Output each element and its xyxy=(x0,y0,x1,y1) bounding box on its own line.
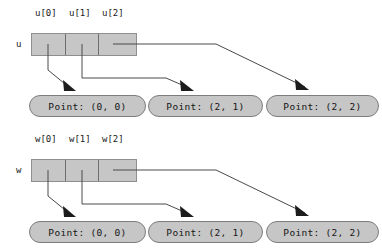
cell-divider xyxy=(65,34,66,55)
point-label: Point: (2, 2) xyxy=(283,101,361,112)
arrowhead-u1 xyxy=(180,80,194,91)
point-label: Point: (0, 0) xyxy=(48,101,126,112)
cell-divider xyxy=(98,34,99,55)
arrowhead-w2 xyxy=(295,205,309,216)
arrowhead-u0 xyxy=(63,80,76,91)
pointer-line-w2 xyxy=(113,170,305,213)
index-label-w2: w[2] xyxy=(102,133,124,145)
array-box-w xyxy=(31,159,137,182)
arrowhead-u2 xyxy=(295,79,309,90)
cell-divider xyxy=(98,160,99,181)
pointer-array-diagram: u[0] u[1] u[2] u Point: (0, 0) Point: (2… xyxy=(0,0,382,252)
index-label-u0: u[0] xyxy=(35,7,57,19)
array-group-w: w[0] w[1] w[2] w Point: (0, 0) Point: (2… xyxy=(0,126,382,252)
variable-label-u: u xyxy=(16,38,21,50)
point-label: Point: (2, 1) xyxy=(166,101,244,112)
arrowhead-w1 xyxy=(180,206,194,217)
point-object-u2: Point: (2, 2) xyxy=(266,95,379,117)
index-label-u1: u[1] xyxy=(69,7,91,19)
point-label: Point: (2, 2) xyxy=(283,227,361,238)
variable-label-w: w xyxy=(16,164,21,176)
point-object-u0: Point: (0, 0) xyxy=(29,95,146,117)
pointer-line-u2 xyxy=(113,44,305,87)
arrowhead-w0 xyxy=(63,206,76,217)
cell-divider xyxy=(65,160,66,181)
point-label: Point: (2, 1) xyxy=(166,227,244,238)
point-object-w2: Point: (2, 2) xyxy=(266,221,379,243)
index-label-u2: u[2] xyxy=(102,7,124,19)
point-object-u1: Point: (2, 1) xyxy=(148,95,263,117)
point-object-w0: Point: (0, 0) xyxy=(29,221,146,243)
point-label: Point: (0, 0) xyxy=(48,227,126,238)
array-group-u: u[0] u[1] u[2] u Point: (0, 0) Point: (2… xyxy=(0,0,382,126)
point-object-w1: Point: (2, 1) xyxy=(148,221,263,243)
array-box-u xyxy=(31,33,137,56)
index-label-w0: w[0] xyxy=(35,133,57,145)
index-label-w1: w[1] xyxy=(69,133,91,145)
